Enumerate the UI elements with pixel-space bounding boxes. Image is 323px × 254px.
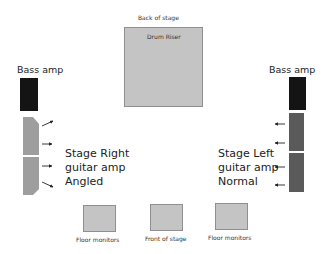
right-bass-amp <box>289 77 306 110</box>
right-bass-amp-label: Bass amp <box>269 64 315 75</box>
floor-monitor-left <box>83 205 116 232</box>
left-guitar-cab-top <box>23 117 39 155</box>
left-arrows <box>42 121 53 187</box>
floor-monitor-center <box>150 204 183 231</box>
front-of-stage-label: Front of stage <box>145 235 186 242</box>
left-guitar-amp-label: Stage Right guitar amp Angled <box>65 147 129 189</box>
right-guitar-cab-top <box>289 113 304 151</box>
floor-monitor-right <box>215 203 248 230</box>
right-guitar-amp-label: Stage Left guitar amp Normal <box>218 147 279 189</box>
floor-monitor-left-label: Floor monitors <box>76 236 119 243</box>
floor-monitor-right-label: Floor monitors <box>208 234 251 241</box>
left-guitar-cab-bottom <box>23 157 39 195</box>
right-guitar-cab-bottom <box>289 153 304 192</box>
